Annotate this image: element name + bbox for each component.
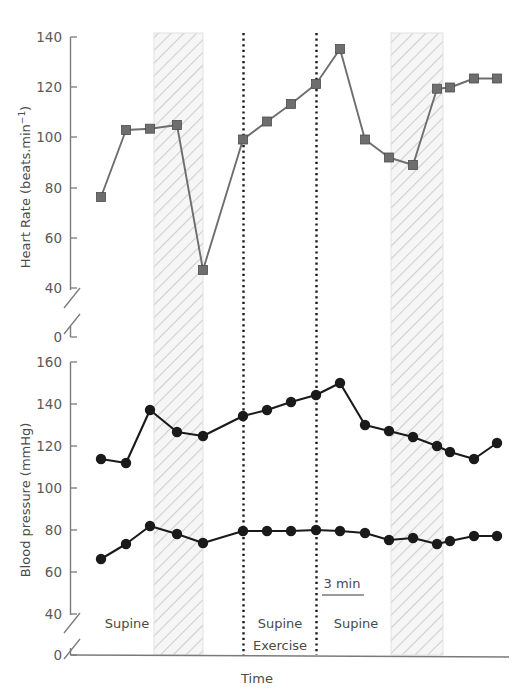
hr-ytick-100: 100: [36, 129, 62, 145]
hr-y-axis-title-superscript: −1: [17, 111, 27, 124]
bp-ytick-140: 140: [36, 396, 62, 412]
hr-marker: [409, 161, 418, 170]
hr-axis-break-mark-1: [64, 288, 80, 308]
bp-ytick-40: 40: [45, 606, 62, 622]
hr-marker: [446, 83, 455, 92]
bp-y-ticks: [71, 362, 78, 655]
bp-ytick-0: 0: [53, 647, 62, 663]
hr-ytick-140: 140: [36, 29, 62, 45]
bp-diastolic-marker: [384, 535, 394, 545]
bp-systolic-marker: [408, 432, 418, 442]
bp-systolic-marker: [384, 426, 394, 436]
hr-marker: [97, 193, 106, 202]
hr-marker: [385, 153, 394, 162]
hr-marker: [493, 74, 502, 83]
bp-axis-break-mark-1: [64, 613, 80, 633]
hr-marker: [287, 100, 296, 109]
hr-ytick-80: 80: [45, 180, 62, 196]
hr-marker: [122, 126, 131, 135]
x-axis-title: Time: [240, 671, 273, 686]
bp-diastolic-marker: [145, 521, 155, 531]
bp-diastolic-marker: [96, 554, 106, 564]
bp-ytick-60: 60: [45, 564, 62, 580]
hr-marker: [239, 135, 248, 144]
scale-bar-label: 3 min: [324, 576, 361, 591]
bp-diastolic-marker: [469, 531, 479, 541]
hr-marker: [263, 117, 272, 126]
bp-diastolic-marker: [360, 528, 370, 538]
annotations-group: 3 min Supine Supine Exercise Supine Time: [105, 576, 379, 686]
bp-systolic-marker: [238, 411, 248, 421]
bp-diastolic-marker: [238, 526, 248, 536]
hr-marker: [470, 74, 479, 83]
bp-systolic-marker: [172, 427, 182, 437]
bp-ytick-80: 80: [45, 522, 62, 538]
bp-systolic-marker: [335, 378, 345, 388]
bp-systolic-marker: [145, 405, 155, 415]
hr-marker: [199, 266, 208, 275]
bp-systolic-marker: [432, 441, 442, 451]
bp-systolic-marker: [469, 454, 479, 464]
hr-y-axis-title: Heart Rate (beats.min−1): [17, 106, 33, 268]
bp-diastolic-marker: [262, 526, 272, 536]
bp-diastolic-marker: [492, 531, 502, 541]
bp-y-axis-title-text: Blood pressure (mmHg): [18, 423, 33, 578]
bp-ytick-120: 120: [36, 438, 62, 454]
phase-label-supine-3: Supine: [334, 616, 379, 631]
phase-label-supine-exercise-line1: Supine: [258, 616, 303, 631]
bp-diastolic-marker: [121, 539, 131, 549]
bp-diastolic-marker: [432, 539, 442, 549]
bp-diastolic-marker: [286, 526, 296, 536]
hr-marker: [361, 135, 370, 144]
bp-ytick-100: 100: [36, 480, 62, 496]
hr-y-axis-title-main: Heart Rate (beats.min: [18, 124, 33, 268]
dual-panel-physiology-chart: 140 120 100 80 60 40 0 Heart Rate (beats…: [0, 0, 514, 698]
hr-axis-break-mark-2: [64, 314, 80, 334]
bp-diastolic-marker: [335, 526, 345, 536]
hr-ytick-0: 0: [53, 329, 62, 345]
bp-ytick-160: 160: [36, 354, 62, 370]
bp-diastolic-marker: [408, 533, 418, 543]
bp-diastolic-marker: [198, 538, 208, 548]
hr-ytick-40: 40: [45, 280, 62, 296]
bp-axis-break-mark-2: [64, 639, 80, 659]
figure-container: 140 120 100 80 60 40 0 Heart Rate (beats…: [0, 0, 514, 698]
bp-diastolic-marker: [311, 525, 321, 535]
hr-marker: [336, 45, 345, 54]
hatched-band-2: [391, 33, 443, 655]
svg-text:Heart Rate (beats.min−1): Heart Rate (beats.min−1): [17, 106, 33, 268]
bp-systolic-marker: [121, 458, 131, 468]
bp-systolic-marker: [96, 454, 106, 464]
bp-y-axis-title: Blood pressure (mmHg): [18, 423, 33, 578]
bp-systolic-marker: [360, 420, 370, 430]
bp-systolic-marker: [311, 390, 321, 400]
bp-systolic-marker: [445, 447, 455, 457]
bp-systolic-marker: [198, 431, 208, 441]
bp-systolic-marker: [286, 397, 296, 407]
bp-systolic-marker: [262, 405, 272, 415]
hr-ytick-120: 120: [36, 79, 62, 95]
phase-label-supine-1: Supine: [105, 616, 150, 631]
hr-y-axis-title-tail: ): [18, 106, 33, 111]
hr-marker: [146, 124, 155, 133]
bp-diastolic-marker: [172, 529, 182, 539]
hatched-bands-group: [154, 33, 443, 655]
hr-marker: [433, 84, 442, 93]
phase-label-supine-exercise-line2: Exercise: [253, 638, 307, 653]
bp-diastolic-marker: [445, 536, 455, 546]
hr-marker: [173, 121, 182, 130]
phase-dividers-group: [244, 33, 317, 655]
hr-marker: [312, 80, 321, 89]
bp-systolic-marker: [492, 438, 502, 448]
hr-ytick-60: 60: [45, 230, 62, 246]
